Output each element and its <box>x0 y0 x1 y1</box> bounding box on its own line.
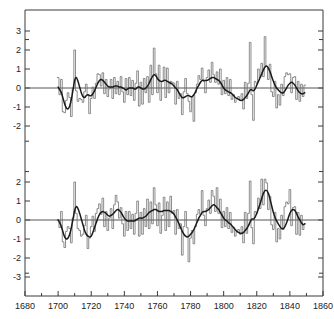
y-tick-label: 0 <box>16 215 21 225</box>
y-tick-label: -1 <box>13 234 21 244</box>
x-tick-label: 1680 <box>15 301 35 311</box>
x-tick-label: 1720 <box>81 301 101 311</box>
x-tick-label: 1740 <box>114 301 134 311</box>
x-tick-label: 1800 <box>214 301 234 311</box>
y-tick-label: 2 <box>16 177 21 187</box>
y-tick-label: 2 <box>16 45 21 55</box>
y-tick-label: 0 <box>16 83 21 93</box>
y-tick-label: -2 <box>13 121 21 131</box>
y-tick-label: -3 <box>13 272 21 282</box>
x-tick-label: 1820 <box>247 301 267 311</box>
y-tick-label: -1 <box>13 102 21 112</box>
y-tick-label: 3 <box>16 26 21 36</box>
y-tick-label: 1 <box>16 64 21 74</box>
x-tick-label: 1840 <box>280 301 300 311</box>
two-panel-timeseries-chart: 1680170017201740176017801800182018401860… <box>0 0 334 319</box>
x-tick-label: 1860 <box>313 301 333 311</box>
chart-figure: 1680170017201740176017801800182018401860… <box>0 0 334 319</box>
x-tick-label: 1700 <box>48 301 68 311</box>
chart-background <box>0 0 334 319</box>
y-tick-label: 1 <box>16 196 21 206</box>
x-tick-label: 1760 <box>147 301 167 311</box>
y-tick-label: -2 <box>13 253 21 263</box>
x-tick-label: 1780 <box>181 301 201 311</box>
